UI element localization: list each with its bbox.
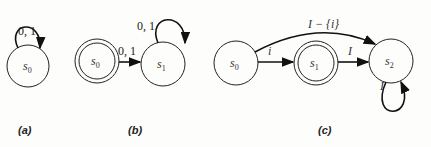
caption-a: (a) bbox=[18, 124, 32, 136]
diagram-b: s0 s1 0, 1 0, 1 (b) bbox=[75, 19, 185, 136]
edge-a-s0-s0-label: 0, 1 bbox=[18, 24, 36, 38]
diagram-a: s0 0, 1 (a) bbox=[7, 24, 49, 136]
diagram-c: s0 s1 s2 i I I − {i} I (c) bbox=[214, 17, 413, 136]
edge-c-s1-s2-label: I bbox=[347, 44, 353, 58]
state-b-s1-label: s1 bbox=[157, 57, 166, 73]
edge-b-s1-s1 bbox=[156, 20, 185, 43]
caption-c: (c) bbox=[318, 124, 332, 136]
edge-b-s1-s1-label: 0, 1 bbox=[137, 19, 155, 33]
state-c-s2-label: s2 bbox=[385, 54, 394, 70]
state-b-s0-label: s0 bbox=[91, 54, 100, 70]
caption-b: (b) bbox=[128, 124, 142, 136]
state-c-s0-label: s0 bbox=[230, 56, 239, 72]
fsa-diagrams: s0 0, 1 (a) s0 s1 0, 1 0, 1 (b) s0 s1 s2… bbox=[0, 0, 431, 147]
edge-c-s0-s2-label: I − {i} bbox=[307, 17, 339, 31]
state-c-s1-label: s1 bbox=[310, 56, 319, 72]
edge-b-s0-s1-label: 0, 1 bbox=[118, 44, 136, 58]
edge-c-s2-s2 bbox=[382, 82, 405, 111]
state-a-s0-label: s0 bbox=[23, 59, 32, 75]
edge-c-s0-s2 bbox=[255, 33, 375, 52]
